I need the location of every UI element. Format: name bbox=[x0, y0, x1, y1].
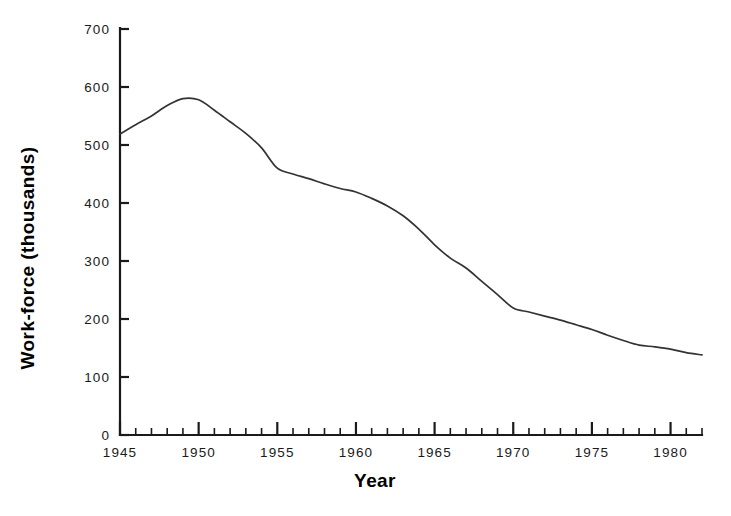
y-tick-label-0: 0 bbox=[101, 428, 110, 443]
y-axis-label: Work-force (thousands) bbox=[8, 0, 48, 516]
y-tick-label-600: 600 bbox=[84, 80, 110, 95]
work-force-line bbox=[120, 98, 702, 355]
y-axis-label-container: Work-force (thousands) bbox=[8, 0, 48, 516]
x-axis-label: Year bbox=[255, 470, 495, 492]
y-tick-label-200: 200 bbox=[84, 312, 110, 327]
y-tick-label-500: 500 bbox=[84, 138, 110, 153]
y-tick-label-300: 300 bbox=[84, 254, 110, 269]
chart-figure: Work-force (thousands) 01002003004005006… bbox=[0, 0, 731, 516]
y-tick-label-700: 700 bbox=[84, 22, 110, 37]
x-tick-label-1980: 1980 bbox=[653, 445, 687, 460]
x-tick-label-1975: 1975 bbox=[575, 445, 609, 460]
y-tick-label-100: 100 bbox=[84, 370, 110, 385]
axis-group bbox=[120, 28, 702, 435]
x-tick-label-1965: 1965 bbox=[417, 445, 451, 460]
x-tick-label-1945: 1945 bbox=[103, 445, 137, 460]
x-tick-label-1960: 1960 bbox=[339, 445, 373, 460]
x-tick-label-1970: 1970 bbox=[496, 445, 530, 460]
tick-label-group: 0100200300400500600700194519501955196019… bbox=[84, 22, 688, 460]
x-tick-label-1955: 1955 bbox=[260, 445, 294, 460]
y-tick-label-400: 400 bbox=[84, 196, 110, 211]
tick-group bbox=[120, 29, 702, 435]
line-chart-plot: 0100200300400500600700194519501955196019… bbox=[0, 0, 731, 516]
x-tick-label-1950: 1950 bbox=[181, 445, 215, 460]
